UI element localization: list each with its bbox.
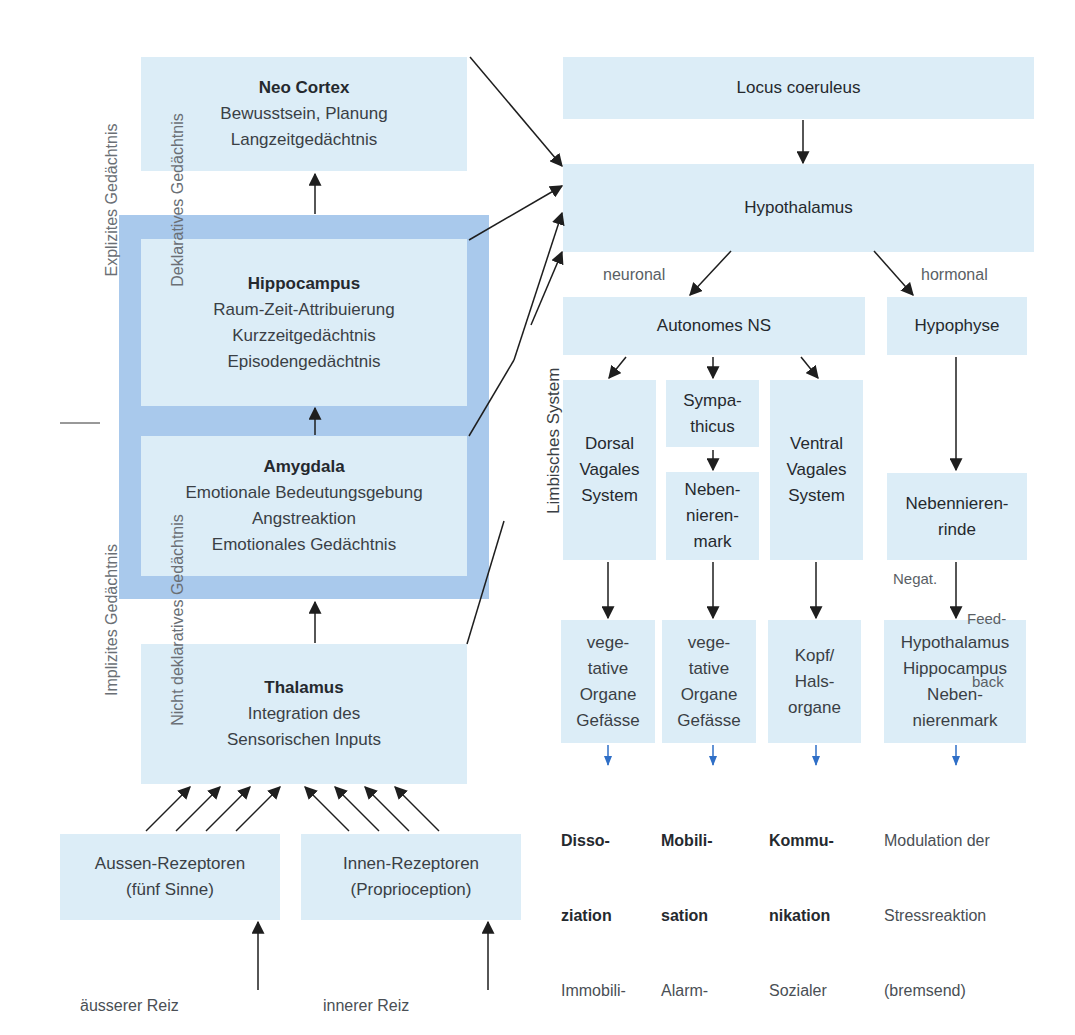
arrow-hippo-to-hypothalamus — [469, 186, 562, 240]
arrow-amyg-to-hypothalamus — [469, 360, 514, 436]
arrow-neocortex-to-hypothalamus — [470, 57, 562, 166]
arrow-neuronal — [690, 251, 731, 295]
arrow-thal-to-hypothalamus — [467, 521, 504, 644]
arrows-layer — [0, 0, 1075, 1035]
arrow-hormonal — [874, 251, 913, 295]
